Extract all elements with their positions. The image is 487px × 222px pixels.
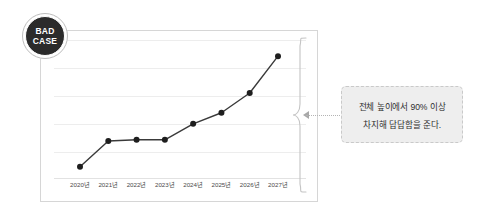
chart-inner: 2020년2021년2022년2023년2024년2025년2026년2027년 <box>54 40 306 194</box>
callout-box: 전체 높이에서 90% 이상 차지해 답답함을 준다. <box>341 86 463 143</box>
x-axis-label: 2024년 <box>183 180 203 189</box>
line-series <box>54 40 306 179</box>
callout-line-1: 전체 높이에서 90% 이상 <box>359 100 446 112</box>
data-point-marker <box>77 164 83 170</box>
bad-case-badge: BAD CASE <box>22 13 68 59</box>
data-point-marker <box>190 121 196 127</box>
x-axis-label: 2027년 <box>268 180 288 189</box>
data-point-marker <box>275 53 281 59</box>
badge-label-line1: BAD <box>35 26 54 36</box>
data-point-marker <box>218 110 224 116</box>
callout-connector-line <box>306 115 342 116</box>
badge-label-line2: CASE <box>33 36 57 46</box>
x-axis-labels: 2020년2021년2022년2023년2024년2025년2026년2027년 <box>54 180 306 194</box>
chart-frame: 2020년2021년2022년2023년2024년2025년2026년2027년 <box>40 30 318 202</box>
x-axis-label: 2023년 <box>155 180 175 189</box>
screenshot-canvas: BAD CASE 2020년2021년2022년2023년2024년2025년2… <box>0 0 487 222</box>
x-axis-label: 2025년 <box>212 180 232 189</box>
x-axis-label: 2026년 <box>240 180 260 189</box>
chart-plot-area <box>54 40 306 179</box>
x-axis-label: 2021년 <box>98 180 118 189</box>
badge-label: BAD CASE <box>33 26 57 46</box>
callout-line-2: 차지해 답답함을 준다. <box>363 118 441 130</box>
data-point-marker <box>162 137 168 143</box>
series-path <box>80 56 278 167</box>
data-point-marker <box>134 137 140 143</box>
x-axis-label: 2020년 <box>70 180 90 189</box>
data-point-marker <box>247 90 253 96</box>
data-point-marker <box>105 138 111 144</box>
x-axis-label: 2022년 <box>127 180 147 189</box>
